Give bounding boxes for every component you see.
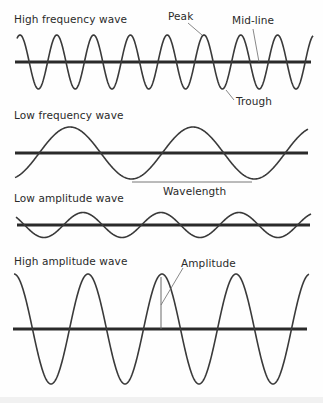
amplitude-label: Amplitude [181, 258, 236, 269]
wave-diagram: High frequency wave Low frequency wave L… [0, 0, 323, 403]
high-frequency-title: High frequency wave [14, 14, 127, 25]
peak-label: Peak [168, 11, 193, 22]
midline-label: Mid-line [232, 15, 274, 26]
high-frequency-wave-graphic [15, 35, 313, 89]
low-amplitude-wave-graphic [16, 213, 311, 238]
peak-leader-line [188, 23, 202, 35]
wavelength-label: Wavelength [163, 186, 226, 197]
low-frequency-wave-graphic [15, 127, 308, 179]
trough-leader-line [226, 90, 234, 100]
high-amplitude-title: High amplitude wave [14, 256, 127, 267]
low-amplitude-title: Low amplitude wave [14, 193, 124, 204]
page-bottom-edge [0, 397, 323, 403]
midline-leader-line [253, 29, 259, 62]
amplitude-leader-line [161, 268, 183, 305]
trough-label: Trough [236, 96, 272, 107]
low-frequency-title: Low frequency wave [14, 110, 124, 121]
